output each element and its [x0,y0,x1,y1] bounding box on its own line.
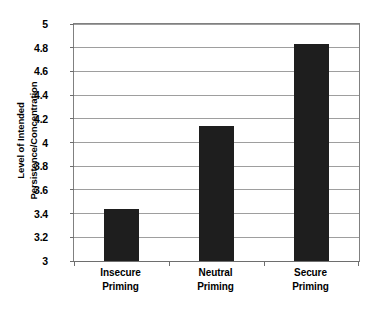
x-axis-category-label: NeutralPriming [168,266,263,293]
y-axis-tick-label: 3.6 [8,184,48,196]
x-axis-category-label-line: Secure [263,266,358,280]
x-axis-category-label-line: Insecure [73,266,168,280]
bar-chart: Level of Intended Persistence/Concentrat… [0,0,376,311]
y-axis-tick-label: 3.4 [8,208,48,220]
y-axis-tick-mark [70,213,74,214]
x-axis-category-labels: InsecurePrimingNeutralPrimingSecurePrimi… [73,266,358,306]
x-axis-category-label: SecurePriming [263,266,358,293]
bar [104,209,139,261]
plot-area: 33.23.43.63.844.24.44.64.85 [73,23,360,262]
x-axis-category-label-line: Neutral [168,266,263,280]
y-axis-tick-mark [70,95,74,96]
y-axis-tick-mark [70,24,74,25]
y-axis-tick-label: 4.8 [8,42,48,54]
y-axis-tick-mark [70,142,74,143]
y-axis-tick-label: 3 [8,255,48,267]
y-axis-tick-label: 3.8 [8,160,48,172]
y-axis-tick-mark [70,47,74,48]
x-axis-category-label: InsecurePriming [73,266,168,293]
bar [294,44,329,261]
y-axis-tick-mark [70,166,74,167]
x-axis-category-label-line: Priming [263,280,358,294]
y-axis-tick-label: 4.6 [8,65,48,77]
y-axis-tick-label: 4.2 [8,113,48,125]
y-axis-tick-label: 5 [8,18,48,30]
y-axis-tick-mark [70,71,74,72]
x-axis-tick-mark [358,261,359,266]
y-axis-tick-label: 4 [8,137,48,149]
bar [199,126,234,261]
y-axis-tick-mark [70,118,74,119]
y-axis-tick-label: 4.4 [8,89,48,101]
y-axis-tick-mark [70,189,74,190]
y-axis-tick-mark [70,237,74,238]
x-axis-category-label-line: Priming [168,280,263,294]
x-axis-category-label-line: Priming [73,280,168,294]
gridline [74,24,359,25]
y-axis-tick-label: 3.2 [8,231,48,243]
